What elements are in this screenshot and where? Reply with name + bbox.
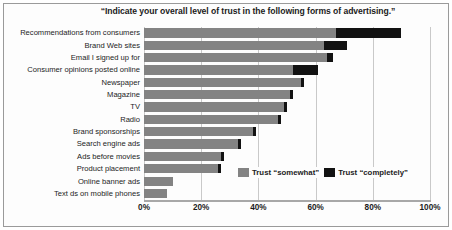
legend-item-completely[interactable]: Trust “completely”	[324, 168, 408, 177]
bar-segment-somewhat	[144, 65, 293, 74]
chart-figure: “Indicate your overall level of trust in…	[0, 0, 452, 230]
bar-row: Magazine	[0, 89, 452, 101]
bar-row: Radio	[0, 113, 452, 125]
bar-segment-completely	[324, 41, 347, 50]
legend-label-completely: Trust “completely”	[338, 168, 408, 177]
bar-segment-completely	[218, 164, 221, 173]
bar-segment-somewhat	[144, 139, 238, 148]
x-tick-label: 60%	[307, 203, 323, 212]
bar-segment-somewhat	[144, 177, 173, 186]
stacked-bar	[144, 127, 430, 136]
bar-segment-completely	[238, 139, 241, 148]
category-label: Radio	[0, 116, 140, 124]
bar-row: Brand Web sites	[0, 39, 452, 51]
bar-segment-somewhat	[144, 41, 324, 50]
bar-row: Search engine ads	[0, 138, 452, 150]
stacked-bar	[144, 152, 430, 161]
category-label: Recommendations from consumers	[0, 29, 140, 37]
bar-segment-somewhat	[144, 115, 278, 124]
chart-legend: Trust “somewhat” Trust “completely”	[236, 167, 410, 178]
x-tick-label: 20%	[193, 203, 209, 212]
category-label: Online banner ads	[0, 178, 140, 186]
chart-title: “Indicate your overall level of trust in…	[0, 6, 452, 16]
bar-row: Email I signed up for	[0, 52, 452, 64]
category-label: Consumer opinions posted online	[0, 66, 140, 74]
bar-segment-completely	[301, 78, 304, 87]
bar-row: Recommendations from consumers	[0, 27, 452, 39]
x-tick-label: 80%	[365, 203, 381, 212]
bar-segment-somewhat	[144, 78, 301, 87]
bar-segment-somewhat	[144, 28, 336, 37]
category-label: Newspaper	[0, 79, 140, 87]
category-label: Ads before movies	[0, 153, 140, 161]
legend-label-somewhat: Trust “somewhat”	[252, 168, 319, 177]
bar-row: Text ds on mobile phones	[0, 187, 452, 199]
bar-segment-completely	[284, 102, 287, 111]
bar-row: TV	[0, 101, 452, 113]
stacked-bar	[144, 102, 430, 111]
x-axis-ticks: 0%20%40%60%80%100%	[0, 203, 452, 217]
bar-segment-completely	[327, 53, 333, 62]
bar-segment-completely	[278, 115, 281, 124]
category-label: Search engine ads	[0, 140, 140, 148]
category-label: Brand Web sites	[0, 42, 140, 50]
bar-row: Newspaper	[0, 76, 452, 88]
bar-segment-completely	[293, 65, 319, 74]
stacked-bar	[144, 53, 430, 62]
category-label: Text ds on mobile phones	[0, 190, 140, 198]
x-tick-label: 100%	[420, 203, 441, 212]
category-label: Magazine	[0, 91, 140, 99]
bar-segment-somewhat	[144, 127, 253, 136]
x-axis-line	[144, 200, 431, 202]
bar-segment-completely	[221, 152, 224, 161]
bar-segment-somewhat	[144, 189, 167, 198]
legend-swatch-somewhat-icon	[238, 168, 249, 177]
stacked-bar	[144, 65, 430, 74]
stacked-bar	[144, 28, 430, 37]
bar-segment-somewhat	[144, 90, 290, 99]
bar-segment-somewhat	[144, 164, 218, 173]
legend-swatch-completely-icon	[324, 168, 335, 177]
bar-segment-somewhat	[144, 152, 221, 161]
bar-segment-somewhat	[144, 53, 327, 62]
category-label: Product placement	[0, 165, 140, 173]
x-tick-label: 40%	[250, 203, 266, 212]
stacked-bar	[144, 41, 430, 50]
bar-row: Ads before movies	[0, 150, 452, 162]
bar-row: Brand sponsorships	[0, 126, 452, 138]
stacked-bar	[144, 78, 430, 87]
stacked-bar	[144, 189, 430, 198]
x-tick-label: 0%	[138, 203, 150, 212]
category-label: TV	[0, 103, 140, 111]
bar-segment-somewhat	[144, 102, 284, 111]
bar-row: Consumer opinions posted online	[0, 64, 452, 76]
category-label: Brand sponsorships	[0, 128, 140, 136]
stacked-bar	[144, 115, 430, 124]
stacked-bar	[144, 139, 430, 148]
bar-segment-completely	[253, 127, 256, 136]
bar-segment-completely	[290, 90, 293, 99]
legend-item-somewhat[interactable]: Trust “somewhat”	[238, 168, 319, 177]
stacked-bar	[144, 90, 430, 99]
category-label: Email I signed up for	[0, 54, 140, 62]
bar-segment-completely	[336, 28, 402, 37]
